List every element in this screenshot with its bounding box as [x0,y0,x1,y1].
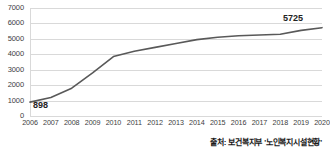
y-axis-tick: 1000 [8,97,24,105]
x-axis-labels: 2006200720082009201020112012201320142015… [30,119,322,131]
x-axis-tick: 2012 [147,119,163,126]
x-axis-tick: 2008 [64,119,80,126]
x-axis-tick: 2006 [22,119,38,126]
x-axis-tick: 2019 [293,119,309,126]
y-axis-tick: 2000 [8,81,24,89]
x-axis-tick: 2016 [231,119,247,126]
x-axis-tick: 2007 [43,119,59,126]
y-axis-tick: 6000 [8,20,24,28]
y-axis-tick: 3000 [8,66,24,74]
x-axis-tick: 2018 [272,119,288,126]
x-axis-tick: 2015 [210,119,226,126]
x-axis-tick: 2010 [106,119,122,126]
data-label-first: 898 [33,101,48,110]
y-axis-tick: 4000 [8,51,24,59]
data-label-last: 5725 [283,14,303,23]
y-axis-labels: 7000 6000 5000 4000 3000 2000 1000 0 [0,8,27,116]
x-axis-tick: 2017 [252,119,268,126]
x-axis-tick: 2014 [189,119,205,126]
plot-area [30,8,322,116]
x-axis-tick: 2020 [314,119,330,126]
gridline [30,116,322,117]
y-axis-tick: 5000 [8,35,24,43]
x-axis-tick: 2009 [85,119,101,126]
x-axis-tick: 2013 [168,119,184,126]
source-note: 출처: 보건복지부 '노인복지시설현황' [210,139,322,148]
y-axis-tick: 7000 [8,4,24,12]
data-series-line [30,8,322,116]
x-axis-tick: 2011 [127,119,142,126]
